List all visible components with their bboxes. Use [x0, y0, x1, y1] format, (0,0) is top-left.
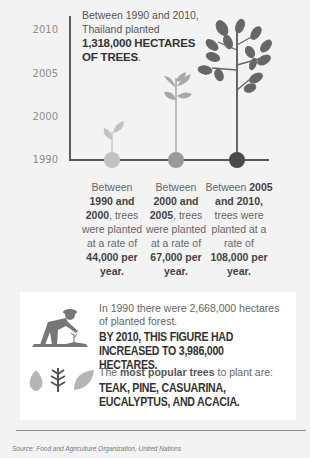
- node-1990-2000: [104, 152, 120, 168]
- mature-tree-icon: [197, 18, 273, 160]
- gardener-icon: [30, 300, 90, 350]
- footer-divider: [16, 430, 306, 431]
- source-note: Source: Food and Agriculture Organizatio…: [12, 445, 181, 452]
- tree-growth-illustration: [0, 0, 310, 180]
- leaf-icon: [30, 370, 43, 391]
- node-2000-2005: [168, 152, 184, 168]
- popular-trees-list: TEAK, PINE, CASUARINA, EUCALYPTUS, AND A…: [99, 381, 278, 409]
- tree-icons: [28, 366, 98, 398]
- period-3-text: Between 2005 and 2010, trees wereplanted…: [198, 180, 280, 278]
- node-2005-2010: [229, 152, 245, 168]
- popular-trees-intro: The most popular trees to plant are:: [99, 366, 273, 379]
- leaf-outline-icon: [74, 370, 94, 390]
- branch-icon: [51, 368, 65, 392]
- young-tree-icon: [164, 72, 192, 160]
- panel-intro: In 1990 there were 2,668,000 hectares of…: [99, 302, 289, 328]
